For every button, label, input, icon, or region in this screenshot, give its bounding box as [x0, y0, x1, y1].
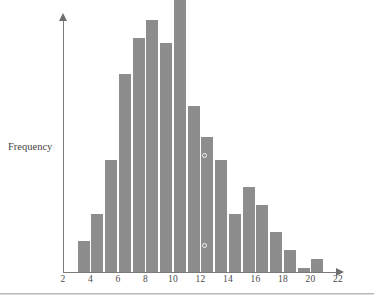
histogram-bar — [188, 106, 200, 273]
x-tick-label: 10 — [168, 274, 178, 284]
histogram-bar — [311, 259, 323, 273]
marker-lower — [202, 243, 207, 248]
x-tick-label: 6 — [116, 274, 121, 284]
histogram-bar — [105, 160, 117, 273]
histogram-bar — [229, 214, 241, 273]
histogram-bar — [146, 20, 158, 272]
x-axis-line — [63, 272, 338, 273]
x-tick-label: 16 — [251, 274, 261, 284]
x-tick-label: 12 — [196, 274, 206, 284]
histogram-figure: Frequency 246810121416182022 — [0, 0, 374, 304]
histogram-bar — [256, 205, 268, 273]
histogram-bar — [298, 268, 310, 273]
x-tick-label: 4 — [88, 274, 93, 284]
histogram-bar — [243, 187, 255, 273]
x-tick-label: 22 — [333, 274, 343, 284]
histogram-bar — [284, 250, 296, 273]
histogram-bar — [270, 232, 282, 273]
histogram-bars — [63, 20, 338, 272]
x-tick-label: 2 — [61, 274, 66, 284]
x-tick-label: 20 — [306, 274, 316, 284]
marker-upper — [202, 153, 207, 158]
histogram-bar — [91, 214, 103, 273]
histogram-bar — [215, 160, 227, 273]
histogram-bar — [119, 74, 131, 272]
y-axis-title: Frequency — [8, 141, 52, 152]
x-tick-label: 18 — [278, 274, 288, 284]
x-tick-label: 8 — [143, 274, 148, 284]
histogram-bar — [174, 0, 186, 272]
histogram-bar — [133, 38, 145, 272]
x-axis-tick-labels: 246810121416182022 — [0, 274, 374, 294]
histogram-bar — [78, 241, 90, 273]
histogram-bar — [160, 43, 172, 273]
page-divider-shadow — [0, 294, 374, 295]
x-tick-label: 14 — [223, 274, 233, 284]
